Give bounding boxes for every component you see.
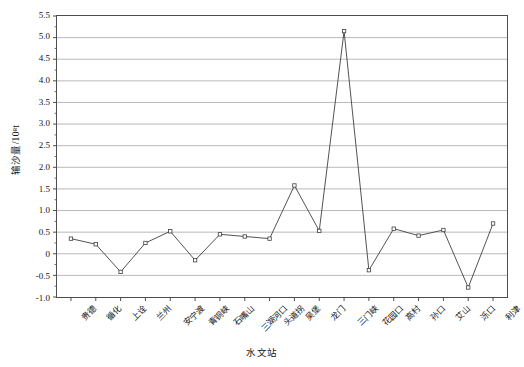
y-tick-label: 2.5	[20, 141, 50, 150]
data-point-marker	[94, 243, 97, 246]
x-tick-label: 青铜峡	[207, 304, 231, 328]
data-series-markers	[69, 29, 495, 289]
x-tick-label: 循化	[105, 304, 124, 323]
x-tick-label: 吴堡	[304, 304, 323, 323]
y-tick-label: 0.5	[20, 228, 50, 237]
plot-area	[56, 15, 508, 298]
y-tick-label: 0	[20, 250, 50, 259]
x-tick-label: 龙门	[329, 304, 348, 323]
y-tick-label: 5.5	[20, 11, 50, 20]
x-tick-label: 安宁渡	[182, 304, 206, 328]
data-point-marker	[69, 237, 72, 240]
data-point-marker	[293, 184, 296, 187]
data-point-marker	[442, 228, 445, 231]
x-tick-label: 高村	[404, 304, 423, 323]
x-tick-label: 泺口	[479, 304, 498, 323]
x-tick-label: 上诠	[130, 304, 149, 323]
data-point-marker	[491, 222, 494, 225]
y-tick-label: 4.0	[20, 76, 50, 85]
data-point-marker	[318, 229, 321, 232]
y-tick-marks	[53, 16, 57, 297]
y-tick-label: -1.0	[20, 294, 50, 303]
data-point-marker	[392, 227, 395, 230]
data-point-marker	[367, 269, 370, 272]
y-tick-label: -0.5	[20, 272, 50, 281]
chart-figure: 输沙量/10⁸t 5.55.04.54.03.53.02.52.01.51.00…	[0, 0, 524, 367]
plot-svg	[57, 16, 507, 297]
data-point-marker	[342, 29, 345, 32]
data-point-marker	[467, 286, 470, 289]
x-axis-title: 水文站	[0, 345, 524, 359]
gridlines	[57, 38, 507, 276]
x-tick-label: 三门峡	[357, 304, 381, 328]
data-point-marker	[169, 230, 172, 233]
data-point-marker	[218, 233, 221, 236]
x-tick-label: 利津	[504, 304, 523, 323]
data-series-line	[71, 31, 493, 287]
x-tick-label: 兰州	[155, 304, 174, 323]
y-tick-label: 2.0	[20, 163, 50, 172]
data-point-marker	[417, 234, 420, 237]
x-tick-label: 石嘴山	[232, 304, 256, 328]
y-axis-tick-labels: 5.55.04.54.03.53.02.52.01.51.00.50-0.5-1…	[20, 0, 50, 367]
x-tick-label: 孙口	[429, 304, 448, 323]
data-point-marker	[144, 241, 147, 244]
y-tick-label: 4.5	[20, 54, 50, 63]
y-tick-label: 3.5	[20, 98, 50, 107]
data-point-marker	[268, 237, 271, 240]
data-point-marker	[243, 235, 246, 238]
y-tick-label: 1.5	[20, 185, 50, 194]
y-tick-label: 5.0	[20, 32, 50, 41]
data-point-marker	[193, 259, 196, 262]
data-point-marker	[119, 270, 122, 273]
y-tick-label: 3.0	[20, 119, 50, 128]
x-tick-label: 贵德	[80, 304, 99, 323]
x-tick-label: 艾山	[454, 304, 473, 323]
x-axis-tick-labels: 贵德循化上诠兰州安宁渡青铜峡石嘴山三湖河口头道拐吴堡龙门三门峡花园口高村孙口艾山…	[56, 300, 508, 350]
y-tick-label: 1.0	[20, 206, 50, 215]
x-tick-label: 花园口	[381, 304, 405, 328]
